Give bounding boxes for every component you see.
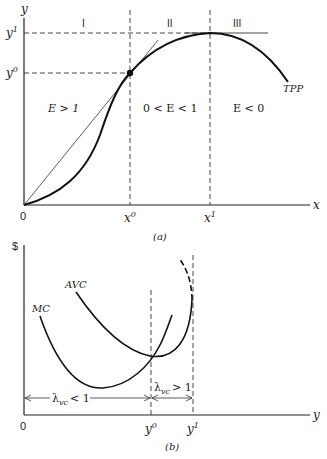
- region-i-condition: E > 1: [47, 102, 79, 115]
- lambda-lt-1-label: λvc< 1: [52, 392, 90, 407]
- mc-curve: [40, 315, 172, 388]
- avc-curve: [76, 292, 192, 357]
- panel-a-y-axis-label: y: [20, 2, 28, 16]
- panel-b-x-axis-label: y: [312, 408, 320, 422]
- y1-tick-label: y1: [5, 25, 18, 40]
- tangency-point: [127, 70, 133, 76]
- avc-curve-label: AVC: [64, 279, 87, 290]
- x0-tick-label: x0: [124, 210, 136, 225]
- panel-b-y-axis-label: $: [12, 240, 18, 252]
- panel-a-caption: (a): [153, 231, 167, 242]
- tpp-curve: [24, 33, 288, 205]
- y0-tick-label: y0: [5, 65, 18, 80]
- y0-tick-label-b: y0: [144, 421, 157, 436]
- x1-tick-label: x1: [204, 210, 216, 225]
- production-cost-diagram: y x 0 y1 y0 x0 x1 I II III E > 1 0 < E <…: [0, 0, 327, 459]
- panel-b-caption: (b): [165, 441, 179, 452]
- panel-a-x-axis-label: x: [313, 198, 320, 212]
- panel-a: y x 0 y1 y0 x0 x1 I II III E > 1 0 < E <…: [5, 2, 320, 242]
- region-i-label: I: [82, 18, 85, 29]
- panel-b-origin-label: 0: [20, 420, 26, 432]
- y1-tick-label-b: y1: [186, 421, 199, 436]
- panel-a-origin-label: 0: [20, 210, 26, 222]
- tpp-curve-label: TPP: [283, 83, 303, 94]
- mc-curve-label: MC: [31, 303, 50, 314]
- region-ii-label: II: [167, 18, 173, 29]
- region-iii-condition: E < 0: [233, 102, 264, 115]
- panel-b: $ y 0 MC AVC λvc< 1 λvc> 1 y0 y1 (b): [12, 240, 320, 452]
- avc-curve-dashed-extension: [179, 258, 192, 300]
- region-iii-label: III: [233, 18, 241, 29]
- lambda-gt-1-label: λvc> 1: [154, 381, 192, 396]
- region-ii-condition: 0 < E < 1: [143, 102, 197, 115]
